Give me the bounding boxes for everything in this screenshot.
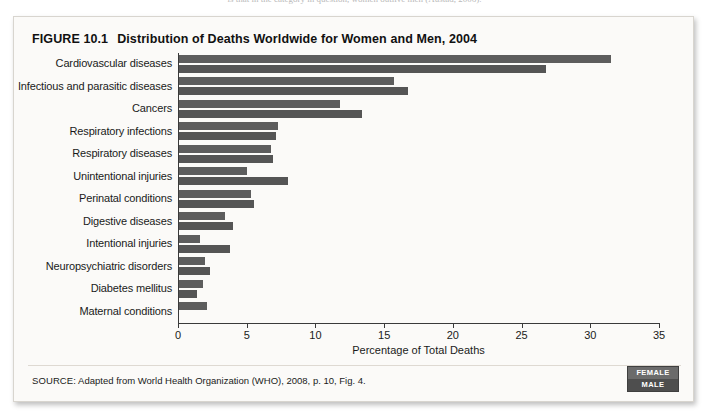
figure-title-text: Distribution of Deaths Worldwide for Wom… bbox=[117, 32, 477, 46]
bar-group bbox=[178, 256, 659, 279]
bar-female bbox=[178, 280, 203, 289]
bar-female bbox=[178, 302, 207, 311]
category-label: Unintentional injuries bbox=[73, 170, 172, 182]
bar-group bbox=[178, 98, 659, 121]
category-label: Infectious and parasitic diseases bbox=[18, 80, 172, 92]
bar-male bbox=[178, 65, 546, 74]
y-axis-line bbox=[178, 53, 179, 324]
figure-number: FIGURE 10.1 bbox=[32, 32, 108, 46]
category-label: Cardiovascular diseases bbox=[56, 57, 172, 69]
x-tick-label: 35 bbox=[653, 329, 665, 341]
bar-group bbox=[178, 233, 659, 256]
bar-group bbox=[178, 301, 659, 324]
bar-female bbox=[178, 55, 611, 64]
bar-male bbox=[178, 132, 276, 141]
bar-group bbox=[178, 211, 659, 234]
bar-group bbox=[178, 121, 659, 144]
bar-female bbox=[178, 122, 278, 131]
bar-group bbox=[178, 166, 659, 189]
category-axis-labels: Cardiovascular diseasesInfectious and pa… bbox=[38, 53, 172, 323]
bar-group bbox=[178, 188, 659, 211]
category-label: Cancers bbox=[132, 102, 172, 114]
bar-male bbox=[178, 245, 230, 254]
source-separator bbox=[28, 365, 681, 366]
x-tick bbox=[384, 323, 385, 328]
category-label: Maternal conditions bbox=[79, 305, 172, 317]
category-label: Respiratory infections bbox=[70, 125, 172, 137]
bar-female bbox=[178, 212, 225, 221]
bar-female bbox=[178, 257, 205, 266]
category-label: Digestive diseases bbox=[83, 215, 172, 227]
x-tick bbox=[590, 323, 591, 328]
bar-male bbox=[178, 155, 273, 164]
source-label: SOURCE: bbox=[32, 375, 76, 386]
category-label: Neuropsychiatric disorders bbox=[46, 260, 172, 272]
bar-male bbox=[178, 267, 210, 276]
x-tick bbox=[247, 323, 248, 328]
bar-male bbox=[178, 110, 362, 119]
category-label: Intentional injuries bbox=[86, 237, 172, 249]
category-label: Diabetes mellitus bbox=[91, 282, 172, 294]
bar-female bbox=[178, 190, 251, 199]
legend-item-female: FEMALE bbox=[628, 367, 678, 379]
x-axis-line bbox=[178, 323, 659, 324]
figure-panel: FIGURE 10.1Distribution of Deaths Worldw… bbox=[13, 16, 694, 402]
x-tick-label: 20 bbox=[447, 329, 459, 341]
figure-title: FIGURE 10.1Distribution of Deaths Worldw… bbox=[32, 29, 477, 47]
bar-male bbox=[178, 290, 197, 299]
source-text: Adapted from World Health Organization (… bbox=[78, 375, 366, 386]
plot-area bbox=[178, 53, 659, 323]
category-label: Perinatal conditions bbox=[79, 192, 172, 204]
x-tick-label: 10 bbox=[309, 329, 321, 341]
x-tick-label: 15 bbox=[378, 329, 390, 341]
category-label: Respiratory diseases bbox=[72, 147, 172, 159]
source-note: SOURCE: Adapted from World Health Organi… bbox=[32, 375, 366, 386]
bar-group bbox=[178, 53, 659, 76]
bar-male bbox=[178, 87, 408, 96]
bar-male bbox=[178, 200, 254, 209]
legend: FEMALE MALE bbox=[627, 366, 679, 392]
x-tick-label: 25 bbox=[515, 329, 527, 341]
x-axis-title: Percentage of Total Deaths bbox=[178, 344, 659, 356]
x-tick-label: 30 bbox=[584, 329, 596, 341]
x-tick bbox=[315, 323, 316, 328]
x-tick bbox=[453, 323, 454, 328]
x-tick-label: 0 bbox=[175, 329, 181, 341]
x-tick bbox=[522, 323, 523, 328]
bar-female bbox=[178, 77, 394, 86]
page-text-remnant: is that in the category in question, wom… bbox=[0, 0, 709, 10]
bar-group bbox=[178, 278, 659, 301]
x-tick bbox=[178, 323, 179, 328]
bar-female bbox=[178, 145, 271, 154]
bar-female bbox=[178, 100, 340, 109]
bar-group bbox=[178, 143, 659, 166]
bar-female bbox=[178, 235, 200, 244]
x-tick bbox=[659, 323, 660, 328]
bar-male bbox=[178, 177, 288, 186]
bar-female bbox=[178, 167, 247, 176]
bar-group bbox=[178, 76, 659, 99]
bar-male bbox=[178, 222, 233, 231]
legend-item-male: MALE bbox=[628, 379, 678, 391]
x-tick-label: 5 bbox=[244, 329, 250, 341]
